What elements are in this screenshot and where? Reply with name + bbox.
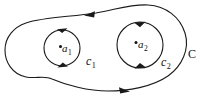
outer-contour-C-path	[5, 5, 186, 91]
contour-diagram-figure: a1 a2 c1 c2 C	[0, 0, 200, 98]
pole-label-a2-base: a	[138, 38, 144, 50]
contour-label-c1-subscript: 1	[91, 61, 96, 70]
contour-label-C-base: C	[188, 47, 196, 61]
contour-label-c2: c2	[161, 56, 171, 71]
pole-label-a1-subscript: 1	[68, 48, 72, 57]
contour-label-c1: c1	[86, 55, 96, 70]
pole-label-a2: a2	[138, 39, 148, 52]
pole-label-a2-subscript: 2	[144, 44, 148, 53]
contour-label-c2-subscript: 2	[166, 62, 171, 71]
diagram-canvas	[0, 0, 200, 98]
outer-contour-bottom-arrow-icon	[119, 87, 130, 93]
inner-contour-c2-top-arrow-icon	[134, 22, 146, 27]
inner-contour-c2-bottom-arrow-icon	[135, 63, 147, 68]
pole-label-a1: a1	[62, 43, 72, 56]
pole-label-a1-base: a	[62, 42, 68, 54]
contour-label-C: C	[188, 48, 196, 60]
